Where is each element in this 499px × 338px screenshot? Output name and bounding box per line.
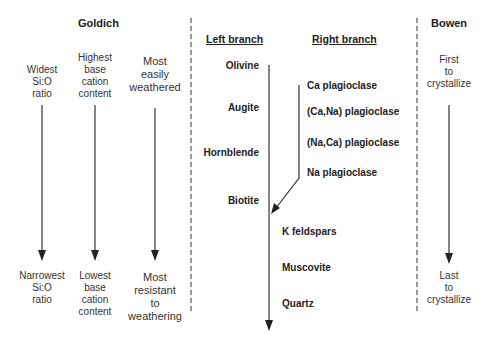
right-branch-arrow	[276, 85, 299, 208]
mineral-muscovite: Muscovite	[282, 262, 331, 273]
goldich-col2-bottom: Lowest base cation content	[65, 270, 125, 318]
bowen-title: Bowen	[431, 17, 467, 29]
mineral-augite: Augite	[228, 102, 259, 113]
goldich-col1-top: Widest Si:O ratio	[12, 64, 72, 100]
mineral-k-feldspars: K feldspars	[282, 226, 336, 237]
mineral-ca-plagioclase: Ca plagioclase	[307, 80, 377, 91]
left-branch-header: Left branch	[206, 33, 263, 45]
mineral-ca-na-plagioclase: (Ca,Na) plagioclase	[307, 106, 399, 117]
mineral-olivine: Olivine	[226, 60, 259, 71]
goldich-col3-top: Most easily weathered	[120, 55, 190, 94]
goldich-col1-bottom: Narrowest Si:O ratio	[12, 270, 72, 306]
right-branch-header: Right branch	[312, 33, 377, 45]
mineral-biotite: Biotite	[228, 195, 259, 206]
bowen-top: First to crystallize	[419, 54, 479, 90]
mineral-na-plagioclase: Na plagioclase	[307, 167, 377, 178]
mineral-quartz: Quartz	[282, 298, 314, 309]
mineral-na-ca-plagioclase: (Na,Ca) plagioclase	[307, 137, 399, 148]
mineral-hornblende: Hornblende	[203, 147, 259, 158]
goldich-title: Goldich	[78, 17, 119, 29]
bowen-bottom: Last to crystallize	[419, 270, 479, 306]
goldich-col2-top: Highest base cation content	[65, 52, 125, 100]
goldich-col3-bottom: Most resistant to weathering	[120, 271, 190, 323]
